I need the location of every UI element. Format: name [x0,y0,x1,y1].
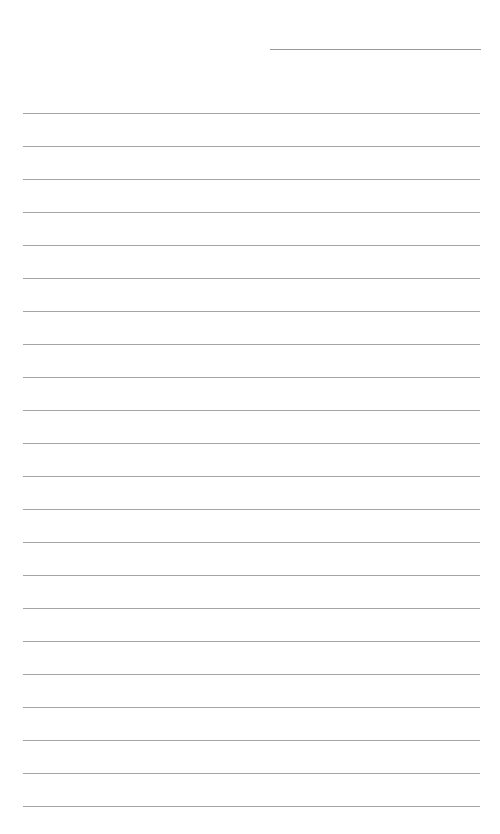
ruled-line [23,410,480,411]
ruled-line [23,773,480,774]
ruled-line [23,179,480,180]
notebook-page [0,0,500,834]
ruled-line [23,146,480,147]
ruled-line [23,113,480,114]
ruled-line [23,344,480,345]
ruled-line [23,575,480,576]
ruled-line [23,443,480,444]
ruled-line [23,542,480,543]
ruled-line [23,641,480,642]
ruled-line [23,509,480,510]
ruled-line [23,608,480,609]
ruled-line [23,212,480,213]
ruled-line [23,707,480,708]
ruled-line [23,740,480,741]
ruled-line [23,674,480,675]
ruled-line [23,476,480,477]
ruled-line [23,806,480,807]
ruled-line [23,311,480,312]
ruled-line [23,377,480,378]
header-write-line [270,49,481,50]
ruled-line [23,278,480,279]
ruled-line [23,245,480,246]
